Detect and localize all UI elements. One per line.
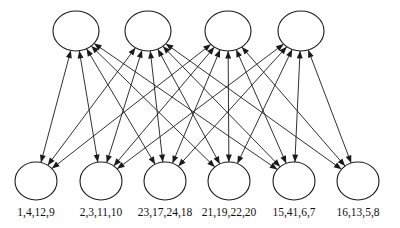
edge-line xyxy=(117,44,283,169)
edge-t3-b4 xyxy=(225,51,232,162)
edges-group xyxy=(40,43,351,169)
arrowhead-down-icon xyxy=(40,155,46,163)
top-nodes-group xyxy=(53,11,324,51)
edge-t2-b3 xyxy=(148,51,165,162)
edge-t2-b1 xyxy=(48,48,136,165)
edge-line xyxy=(308,50,351,163)
bottom-node-1[interactable] xyxy=(15,162,57,200)
bottom-nodes-group xyxy=(15,162,379,200)
arrowhead-down-icon xyxy=(292,154,298,162)
edge-line xyxy=(41,50,71,162)
edge-t2-b5 xyxy=(163,46,280,166)
bottom-node-labels-group: 1,4,12,92,3,11,1023,17,24,1821,19,22,201… xyxy=(17,206,380,219)
arrowhead-up-icon xyxy=(148,51,154,59)
edge-line xyxy=(163,46,280,166)
bottom-node-6[interactable] xyxy=(337,162,379,200)
bottom-node-label-2: 2,3,11,10 xyxy=(80,206,123,219)
bottom-node-label-6: 16,13,5,8 xyxy=(336,206,379,219)
arrowhead-down-icon xyxy=(52,162,60,169)
arrowhead-down-icon xyxy=(346,155,352,163)
edge-t4-b4 xyxy=(237,49,292,163)
edge-line xyxy=(237,49,292,163)
edge-t3-b1 xyxy=(52,44,211,168)
edge-line xyxy=(166,44,342,170)
arrowhead-up-icon xyxy=(308,50,314,58)
bottom-node-5[interactable] xyxy=(273,162,315,200)
edge-line xyxy=(52,44,211,168)
arrowhead-up-icon xyxy=(78,51,84,59)
edge-t3-b2 xyxy=(114,47,215,166)
arrowhead-up-icon xyxy=(87,49,93,57)
edge-line xyxy=(48,48,136,165)
arrowhead-up-icon xyxy=(129,48,136,56)
bottom-node-label-1: 1,4,12,9 xyxy=(17,206,55,219)
arrowhead-up-icon xyxy=(158,49,164,57)
edge-line xyxy=(150,51,163,162)
arrowhead-down-icon xyxy=(159,154,165,162)
arrowhead-down-icon xyxy=(226,154,232,162)
graph-canvas: 1,4,12,92,3,11,1023,17,24,1821,19,22,201… xyxy=(0,0,400,228)
graph-diagram: 1,4,12,92,3,11,1023,17,24,1821,19,22,201… xyxy=(0,0,400,228)
edge-t2-b6 xyxy=(166,44,342,170)
edge-line xyxy=(87,49,156,164)
edge-t1-b5 xyxy=(94,43,277,169)
arrowhead-down-icon xyxy=(237,156,243,164)
bottom-node-2[interactable] xyxy=(80,162,122,200)
bottom-node-label-4: 21,19,22,20 xyxy=(202,206,257,219)
top-node-2[interactable] xyxy=(125,11,171,51)
arrowhead-up-icon xyxy=(137,50,143,58)
edge-line xyxy=(94,43,277,169)
bottom-node-label-5: 15,41,6,7 xyxy=(272,206,315,219)
arrowhead-down-icon xyxy=(214,156,220,164)
arrowhead-up-icon xyxy=(225,51,231,59)
top-node-1[interactable] xyxy=(53,11,99,51)
edge-line xyxy=(295,51,300,162)
arrowhead-up-icon xyxy=(66,50,72,58)
edge-t1-b3 xyxy=(87,49,156,164)
arrowhead-up-icon xyxy=(297,51,303,59)
arrowhead-down-icon xyxy=(172,155,178,163)
arrowhead-up-icon xyxy=(236,50,242,58)
edge-line xyxy=(158,49,220,164)
edge-t4-b2 xyxy=(117,44,283,169)
arrowhead-down-icon xyxy=(280,155,286,163)
bottom-node-3[interactable] xyxy=(144,162,186,200)
bottom-node-4[interactable] xyxy=(208,162,250,200)
arrowhead-up-icon xyxy=(286,49,292,57)
top-node-3[interactable] xyxy=(205,11,251,51)
arrowhead-down-icon xyxy=(149,156,155,164)
arrowhead-down-icon xyxy=(48,157,55,165)
edge-t2-b2 xyxy=(106,50,142,162)
arrowhead-down-icon xyxy=(106,155,112,163)
edge-line xyxy=(114,47,215,166)
edge-t4-b6 xyxy=(308,50,351,163)
edge-line xyxy=(228,51,229,162)
edge-t1-b1 xyxy=(40,50,72,162)
top-node-4[interactable] xyxy=(278,11,324,51)
arrowhead-down-icon xyxy=(94,154,100,162)
arrowhead-up-icon xyxy=(214,50,220,58)
edge-t2-b4 xyxy=(158,49,220,164)
bottom-node-label-3: 23,17,24,18 xyxy=(138,206,193,219)
edge-line xyxy=(107,50,142,162)
